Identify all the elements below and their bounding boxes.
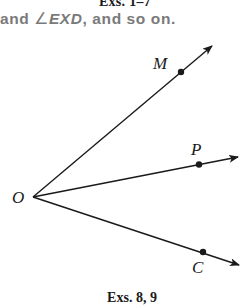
vertex-o-label: O — [12, 188, 24, 207]
point-p-label: P — [190, 140, 201, 159]
ray-oc — [33, 197, 239, 265]
ray-op — [33, 157, 238, 197]
point-m-dot — [178, 69, 184, 75]
exercises-caption-bottom: Exs. 8, 9 — [0, 290, 250, 306]
point-p-dot — [196, 161, 202, 167]
point-c-label: C — [192, 258, 204, 277]
point-c-dot — [200, 249, 206, 255]
point-m-label: M — [152, 54, 168, 73]
ray-om — [33, 46, 212, 197]
